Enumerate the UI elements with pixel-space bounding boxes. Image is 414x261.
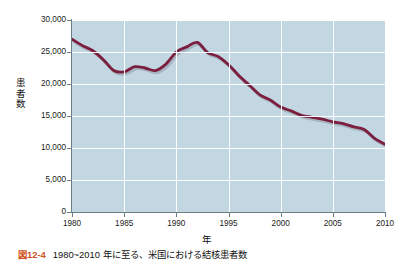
plot-area (72, 20, 385, 212)
x-tick-label: 1995 (209, 219, 249, 228)
x-tick-label: 2010 (365, 219, 405, 228)
y-tick-mark (67, 116, 71, 117)
y-tick-mark (67, 84, 71, 85)
chart-figure: 患者数 05,00010,00015,00020,00025,00030,000… (0, 0, 414, 246)
y-tick-mark (67, 212, 71, 213)
y-tick-label: 15,000 (41, 112, 66, 120)
y-tick-mark (67, 148, 71, 149)
y-tick-label: 5,000 (46, 176, 67, 184)
gridline-vertical (281, 20, 282, 212)
figure-panel: 患者数 05,00010,00015,00020,00025,00030,000… (0, 0, 414, 261)
y-tick-label: 30,000 (41, 16, 66, 24)
gridline-vertical (229, 20, 230, 212)
x-axis-title: 年 (0, 232, 414, 246)
x-tick-label: 2005 (313, 219, 353, 228)
x-tick-label: 2000 (261, 219, 301, 228)
gridline-vertical (176, 20, 177, 212)
y-axis-tick-labels: 05,00010,00015,00020,00025,00030,000 (0, 0, 66, 246)
x-tick-mark (229, 213, 230, 217)
y-tick-label: 20,000 (41, 80, 66, 88)
gridline-vertical (333, 20, 334, 212)
y-tick-label: 10,000 (41, 144, 66, 152)
x-tick-label: 1985 (104, 219, 144, 228)
x-tick-mark (333, 213, 334, 217)
figure-caption: 図12-41980~2010 年に至る、米国における結核患者数 (18, 249, 414, 261)
x-tick-mark (124, 213, 125, 217)
x-tick-mark (176, 213, 177, 217)
gridline-vertical (124, 20, 125, 212)
x-tick-label: 1990 (156, 219, 196, 228)
y-tick-mark (67, 52, 71, 53)
y-tick-mark (67, 180, 71, 181)
x-tick-mark (72, 213, 73, 217)
y-tick-label: 0 (61, 208, 66, 216)
figure-number: 図12-4 (18, 249, 46, 260)
x-tick-label: 1980 (52, 219, 92, 228)
x-tick-mark (385, 213, 386, 217)
x-tick-mark (281, 213, 282, 217)
figure-caption-text: 1980~2010 年に至る、米国における結核患者数 (53, 249, 247, 260)
y-tick-label: 25,000 (41, 48, 66, 56)
y-tick-mark (67, 20, 71, 21)
